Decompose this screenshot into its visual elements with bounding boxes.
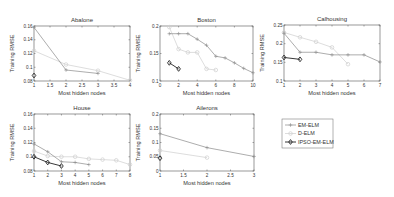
x-tick-label: 2 [177,83,180,88]
x-tick-label: 4 [74,173,77,178]
x-tick-label: 4 [129,83,132,88]
x-tick-label: 2.5 [227,173,234,178]
x-axis-label: Most hidden nodes [58,180,105,186]
plot-area [160,26,253,81]
y-tick-label: 0.14 [24,37,33,42]
y-axis-label: Training RMSE [259,34,265,72]
y-tick-label: 0.15 [150,126,159,131]
legend: EM-ELMD-ELMIPSO-EM-ELM [282,119,334,148]
x-tick-label: 6 [215,83,218,88]
y-tick-label: 0.14 [24,126,33,131]
x-tick-label: 1.5 [47,83,54,88]
x-tick-label: 4 [331,83,334,88]
y-tick-label: 0.08 [24,79,33,84]
y-tick-label: 0.15 [274,60,283,65]
y-tick-label: 0.2 [152,24,159,29]
y-tick-label: 0.15 [150,51,159,56]
x-tick-label: 3 [315,83,318,88]
y-tick-label: 0.16 [24,24,33,29]
x-tick-label: 5 [347,83,350,88]
y-tick-label: 0.16 [24,112,33,117]
x-tick-label: 3 [97,83,100,88]
x-tick-label: 10 [250,83,256,88]
subplot-title: Abalone [71,17,94,23]
x-tick-label: 1 [283,83,286,88]
y-axis-label: Training RMSE [9,123,15,161]
x-tick-label: 7 [379,83,382,88]
y-axis-label: Training RMSE [135,123,141,161]
y-tick-label: 0 [156,169,159,174]
x-tick-label: 1 [33,173,36,178]
subplot-title: House [73,105,91,111]
y-tick-label: 0.1 [152,140,159,145]
legend-label: IPSO-EM-ELM [298,139,334,145]
chart-canvas: 11.522.533.540.080.10.120.140.16AbaloneM… [0,0,394,197]
x-tick-label: 2 [299,83,302,88]
y-tick-label: 0.2 [276,41,283,46]
subplot-title: Boston [197,17,216,23]
x-tick-label: 4 [196,83,199,88]
y-axis-label: Training RMSE [135,34,141,72]
subplot-abalone: 11.522.533.540.080.10.120.140.16AbaloneM… [9,17,132,96]
x-tick-label: 2.5 [79,83,86,88]
plot-area [34,26,130,81]
y-tick-label: 0.08 [24,169,33,174]
x-tick-label: 2 [206,173,209,178]
plot-area [284,25,380,81]
y-tick-label: 0.12 [24,51,33,56]
x-axis-label: Most hidden nodes [183,90,230,96]
y-tick-label: 0.05 [150,154,159,159]
y-tick-label: 0.1 [276,79,283,84]
y-tick-label: 0.25 [274,23,283,28]
x-tick-label: 3 [253,173,256,178]
subplot-house: 123456780.080.10.120.140.16HouseMost hid… [9,105,132,186]
x-tick-label: 8 [233,83,236,88]
x-tick-label: 8 [129,173,132,178]
y-tick-label: 0.1 [26,65,33,70]
subplot-calhousing: 12345670.10.150.20.25CalhousingMost hidd… [259,16,382,96]
x-tick-label: 7 [115,173,118,178]
x-tick-label: 1 [159,173,162,178]
x-axis-label: Most hidden nodes [183,180,230,186]
x-tick-label: 3 [60,173,63,178]
x-tick-label: 2 [65,83,68,88]
x-tick-label: 6 [363,83,366,88]
x-axis-label: Most hidden nodes [58,90,105,96]
y-axis-label: Training RMSE [9,34,15,72]
subplot-boston: 02468100.10.150.2BostonMost hidden nodes… [135,17,256,96]
x-tick-label: 0 [159,83,162,88]
subplot-ailerons: 11.522.5300.050.10.150.2AileronsMost hid… [135,105,256,186]
y-tick-label: 0.2 [152,112,159,117]
figure: 11.522.533.540.080.10.120.140.16AbaloneM… [0,0,394,197]
legend-label: D-ELM [298,130,315,136]
legend-label: EM-ELM [298,122,319,128]
subplot-title: Calhousing [317,16,347,22]
x-tick-label: 1.5 [180,173,187,178]
x-tick-label: 1 [33,83,36,88]
x-tick-label: 5 [88,173,91,178]
y-tick-label: 0.1 [152,79,159,84]
plot-area [160,114,254,171]
x-tick-label: 6 [101,173,104,178]
x-axis-label: Most hidden nodes [308,90,355,96]
y-tick-label: 0.12 [24,140,33,145]
x-tick-label: 3.5 [111,83,118,88]
subplot-title: Ailerons [196,105,218,111]
x-tick-label: 2 [46,173,49,178]
